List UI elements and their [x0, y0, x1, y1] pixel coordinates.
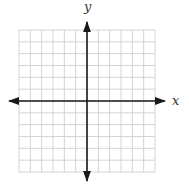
coordinate-plane: y x	[0, 0, 189, 184]
y-axis-label: y	[83, 0, 92, 14]
x-axis-label: x	[172, 93, 180, 108]
